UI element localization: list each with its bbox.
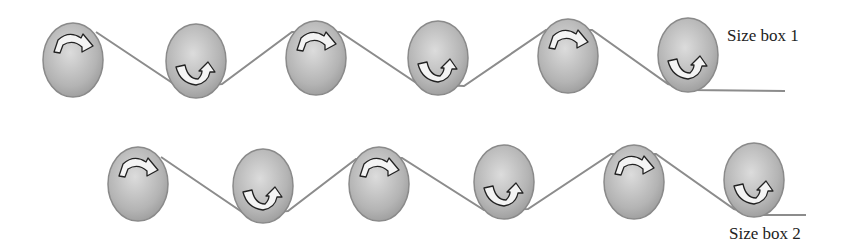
pulley-1 [108,147,168,221]
pulley-3 [349,147,409,221]
pulley-5 [538,19,598,93]
pulley-6 [658,18,718,92]
pulley-ellipse [658,18,718,92]
pulley-4 [474,145,534,219]
pulley-6 [724,143,784,217]
pulley-ellipse [474,145,534,219]
size-box-2-row [108,143,806,223]
pulley-ellipse [724,143,784,217]
size-box-1-row [43,18,785,98]
pulley-ellipse [233,149,293,223]
pulley-1 [43,23,103,97]
size-box-2-label: Size box 2 [729,224,801,244]
pulley-4 [408,21,468,95]
pulley-5 [604,145,664,219]
pulley-2 [233,149,293,223]
pulley-ellipse [408,21,468,95]
pulley-2 [166,24,226,98]
size-box-1-label: Size box 1 [727,26,799,46]
pulley-ellipse [166,24,226,98]
pulley-3 [286,21,346,95]
